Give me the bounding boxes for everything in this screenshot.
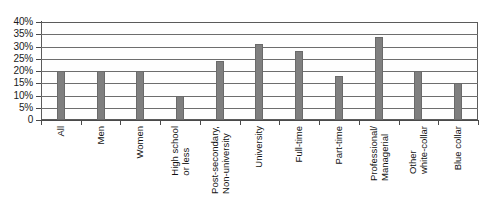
x-axis-label: Full-time (294, 126, 305, 162)
y-axis-tick-label: 35% (14, 29, 33, 39)
x-axis-label: Post-secondary,Non-university (209, 126, 230, 194)
x-axis-tick (359, 121, 360, 125)
bar (454, 83, 462, 120)
x-axis-label-slot: Men (81, 126, 121, 220)
x-axis-label-slot: Otherwhite-collar (399, 126, 439, 220)
bar-slot (438, 22, 478, 120)
x-axis-tick (279, 121, 280, 125)
x-axis-label: Part-time (334, 126, 345, 165)
bar (97, 71, 105, 120)
y-axis-tick-label: 5% (19, 103, 33, 113)
x-axis-tick (319, 121, 320, 125)
x-axis-label-slot: Women (120, 126, 160, 220)
x-axis-tick (399, 121, 400, 125)
x-axis-label: Women (135, 126, 146, 159)
bar-slot (120, 22, 160, 120)
y-axis-tick-label: 30% (14, 42, 33, 52)
x-axis-tick (200, 121, 201, 125)
bar (414, 71, 422, 120)
x-axis-label: Professional/Managerial (368, 126, 389, 181)
bar (295, 51, 303, 120)
y-axis-tick-label: 0 (28, 115, 33, 125)
bar (255, 44, 263, 120)
bar-slot (240, 22, 280, 120)
bar (375, 37, 383, 120)
x-axis-label-slot: Full-time (279, 126, 319, 220)
x-axis-tick (478, 121, 479, 125)
x-axis-tick (120, 121, 121, 125)
bar-chart: 05%10%15%20%25%30%35%40% AllMenWomenHigh… (0, 0, 491, 220)
bar-slot (399, 22, 439, 120)
bar-slot (279, 22, 319, 120)
x-axis-label-slot: All (41, 126, 81, 220)
bar-slot (160, 22, 200, 120)
x-axis-label: University (254, 126, 265, 168)
y-axis: 05%10%15%20%25%30%35%40% (0, 0, 38, 220)
x-axis-label: Men (95, 126, 106, 144)
bar-series (41, 22, 478, 120)
bar-slot (81, 22, 121, 120)
bar-slot (41, 22, 81, 120)
x-axis-label: Otherwhite-collar (408, 126, 429, 174)
x-axis-labels: AllMenWomenHigh schoolor lessPost-second… (41, 126, 478, 220)
x-axis-label-slot: Post-secondary,Non-university (200, 126, 240, 220)
x-axis-label: Blue collar (453, 126, 464, 170)
x-axis-tick (81, 121, 82, 125)
x-axis-label-slot: Part-time (319, 126, 359, 220)
bar (136, 71, 144, 120)
bar-slot (319, 22, 359, 120)
bar (335, 76, 343, 120)
x-axis-label-slot: Professional/Managerial (359, 126, 399, 220)
bar-slot (200, 22, 240, 120)
bar-slot (359, 22, 399, 120)
x-axis-tick (240, 121, 241, 125)
bar (57, 71, 65, 120)
bar (216, 61, 224, 120)
x-axis-label: High schoolor less (170, 126, 191, 176)
y-axis-tick-label: 10% (14, 91, 33, 101)
x-axis-tick (41, 121, 42, 125)
y-axis-tick-label: 25% (14, 54, 33, 64)
y-axis-tick-label: 15% (14, 78, 33, 88)
x-axis-label: All (56, 126, 67, 137)
y-axis-tick-label: 40% (14, 17, 33, 27)
x-axis-tick (160, 121, 161, 125)
y-axis-tick-label: 20% (14, 66, 33, 76)
x-axis-label-slot: Blue collar (438, 126, 478, 220)
x-axis-tick (438, 121, 439, 125)
bar (176, 96, 184, 121)
x-axis-label-slot: High schoolor less (160, 126, 200, 220)
x-axis-label-slot: University (240, 126, 280, 220)
